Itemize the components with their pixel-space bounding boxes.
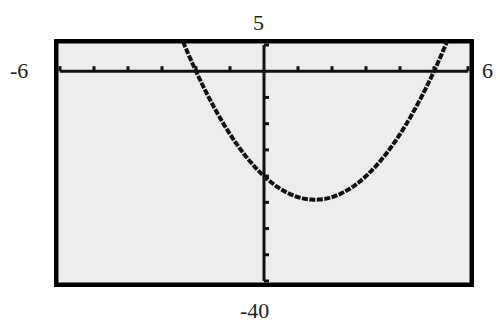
parabola-curve — [182, 42, 447, 199]
label-xmin: -6 — [10, 60, 28, 82]
calculator-screen — [54, 39, 474, 287]
label-ymin: -40 — [240, 300, 269, 322]
label-ymax: 5 — [253, 12, 264, 34]
graph-plot — [54, 39, 474, 287]
label-xmax: 6 — [482, 60, 493, 82]
